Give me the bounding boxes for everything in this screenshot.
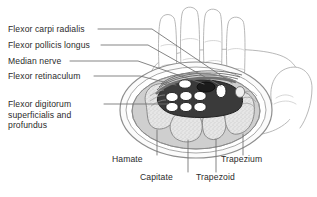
label-median-nerve: Median nerve xyxy=(8,56,61,67)
flexor-carpi-radialis-structure xyxy=(179,80,192,88)
median-nerve-structure xyxy=(197,82,215,92)
label-flexor-retinaculum: Flexor retinaculum xyxy=(8,71,80,82)
label-flexor-digitorum: Flexor digitorum superficialis and profu… xyxy=(8,99,104,131)
label-flexor-pollicis-longus: Flexor pollicis longus xyxy=(8,40,90,51)
label-trapezium: Trapezium xyxy=(221,154,262,165)
label-flexor-carpi-radialis: Flexor carpi radialis xyxy=(8,24,85,35)
label-trapezoid: Trapezoid xyxy=(196,172,235,183)
label-capitate: Capitate xyxy=(140,172,173,183)
carpal-tunnel-figure: Flexor carpi radialis Flexor pollicis lo… xyxy=(0,0,317,197)
label-hamate: Hamate xyxy=(112,154,143,165)
ulnar-canal-structure xyxy=(235,87,244,98)
